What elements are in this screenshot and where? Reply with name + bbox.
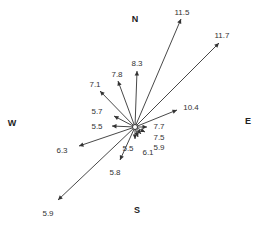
vector-value-label: 6.3 [56, 146, 68, 155]
arrowhead-icon [133, 135, 137, 140]
center-hub [133, 125, 138, 130]
vector-line [118, 81, 135, 127]
vector-arrow: 11.7 [135, 31, 230, 127]
arrowhead-icon [143, 125, 148, 129]
vector-value-label: 7.7 [153, 122, 165, 131]
cardinal-s: S [134, 205, 140, 215]
vector-arrow: 11.5 [135, 8, 190, 127]
cardinal-e: E [245, 116, 251, 126]
vector-line [58, 127, 135, 200]
vector-value-label: 10.4 [183, 103, 199, 112]
cardinal-n: N [132, 14, 139, 24]
vector-line [135, 71, 137, 127]
vector-value-label: 5.9 [42, 209, 54, 218]
wind-rose-diagram: NEWS 11.511.78.37.87.15.75.510.47.77.55.… [0, 0, 263, 233]
vector-arrow: 7.8 [111, 70, 135, 127]
arrowhead-icon [135, 71, 139, 76]
cardinal-w: W [8, 118, 17, 128]
vector-value-label: 7.5 [153, 133, 165, 142]
vector-value-label: 8.3 [131, 59, 143, 68]
vector-value-label: 6.1 [142, 148, 154, 157]
vector-arrow: 7.1 [89, 80, 135, 127]
vector-value-label: 5.8 [109, 168, 121, 177]
vector-value-label: 11.5 [175, 8, 191, 17]
vector-value-label: 7.1 [89, 80, 101, 89]
cardinal-labels: NEWS [8, 14, 251, 215]
vector-arrow: 5.9 [42, 127, 135, 218]
vector-value-label: 5.9 [153, 143, 165, 152]
vector-group: 11.511.78.37.87.15.75.510.47.77.55.96.15… [42, 8, 230, 218]
arrowhead-icon [112, 124, 117, 128]
vector-arrow: 8.3 [131, 59, 143, 127]
vector-value-label: 5.5 [91, 122, 103, 131]
vector-line [135, 43, 219, 127]
vector-value-label: 5.7 [91, 107, 103, 116]
vector-value-label: 7.8 [111, 70, 123, 79]
vector-value-label: 11.7 [215, 31, 231, 40]
vector-arrow: 10.4 [135, 103, 199, 127]
vector-line [100, 91, 135, 127]
arrowhead-icon [79, 142, 84, 146]
